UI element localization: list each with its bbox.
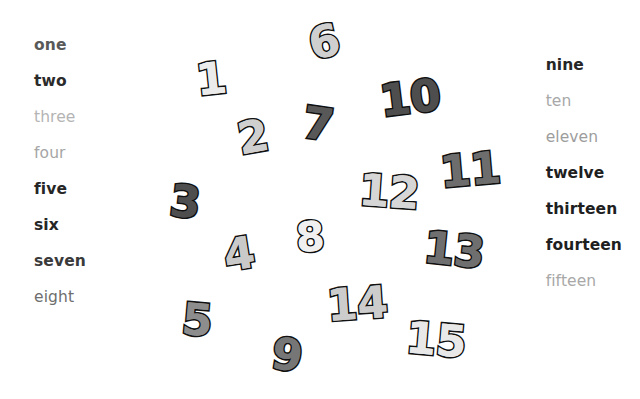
bubble-number-11: 1111: [438, 145, 502, 194]
word-label-eleven: eleven: [546, 130, 599, 146]
number-words-left-column: onetwothreefourfivesixseveneight: [34, 38, 86, 326]
word-label-five: five: [34, 182, 67, 198]
bubble-number-fill-3: 3: [168, 179, 203, 226]
bubble-number-13: 1313: [422, 225, 487, 275]
word-label-fourteen: fourteen: [546, 238, 622, 254]
bubble-number-1: 11: [194, 56, 229, 103]
word-label-nine: nine: [546, 58, 584, 74]
bubble-number-fill-12: 12: [358, 168, 421, 216]
bubble-number-5: 55: [180, 297, 214, 343]
bubble-number-4: 44: [221, 230, 258, 278]
bubble-number-10: 1010: [378, 72, 443, 123]
bubble-number-8: 88: [295, 216, 326, 259]
bubble-number-fill-5: 5: [180, 297, 214, 343]
bubble-number-fill-11: 11: [438, 145, 502, 194]
word-label-seven: seven: [34, 254, 86, 270]
bubble-number-fill-2: 2: [234, 113, 271, 162]
number-words-right-column: nineteneleventwelvethirteenfourteenfifte…: [546, 58, 622, 310]
word-label-one: one: [34, 38, 67, 54]
word-label-two: two: [34, 74, 67, 90]
bubble-number-7: 77: [300, 100, 336, 148]
word-label-three: three: [34, 110, 76, 126]
scattered-numbers-canvas: onetwothreefourfivesixseveneight nineten…: [0, 0, 640, 399]
bubble-number-fill-7: 7: [300, 100, 336, 148]
bubble-number-9: 99: [269, 331, 306, 379]
bubble-number-fill-14: 14: [326, 280, 389, 328]
bubble-number-15: 1515: [404, 315, 468, 364]
bubble-number-fill-13: 13: [422, 225, 487, 275]
bubble-number-fill-15: 15: [404, 315, 468, 364]
bubble-number-12: 1212: [358, 168, 421, 216]
bubble-number-fill-1: 1: [194, 56, 229, 103]
bubble-number-2: 22: [234, 113, 271, 162]
bubble-number-fill-9: 9: [269, 331, 306, 379]
bubble-number-fill-10: 10: [378, 72, 443, 123]
bubble-number-fill-8: 8: [295, 216, 326, 259]
word-label-fifteen: fifteen: [546, 274, 597, 290]
word-label-ten: ten: [546, 94, 572, 110]
bubble-number-fill-4: 4: [221, 230, 258, 278]
word-label-eight: eight: [34, 290, 74, 306]
bubble-number-fill-6: 6: [304, 17, 343, 67]
bubble-number-14: 1414: [326, 280, 389, 328]
word-label-twelve: twelve: [546, 166, 605, 182]
word-label-thirteen: thirteen: [546, 202, 618, 218]
word-label-six: six: [34, 218, 59, 234]
bubble-number-3: 33: [168, 179, 203, 226]
bubble-number-6: 66: [304, 17, 343, 67]
word-label-four: four: [34, 146, 66, 162]
